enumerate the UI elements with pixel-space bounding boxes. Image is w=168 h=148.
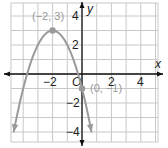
vertex-label: (−2, 3): [32, 10, 64, 22]
y-intercept-label: (0, −1): [90, 82, 122, 94]
vertex-point: [49, 27, 55, 33]
tick-labels: x y O −2 2 4 4 2 −2 −4: [43, 2, 162, 139]
x-tick-4: 4: [137, 75, 144, 89]
y-axis-down-arrow-icon: [80, 140, 85, 146]
parabola-graph: x y O −2 2 4 4 2 −2 −4 (−2, 3) (0, −1): [0, 0, 168, 148]
y-tick-4: 4: [72, 9, 79, 23]
grid-border: [11, 3, 158, 142]
grid: [11, 3, 158, 142]
x-axis-right-arrow-icon: [157, 72, 163, 77]
x-axis-label: x: [154, 57, 162, 71]
x-tick-neg2: −2: [43, 75, 57, 89]
y-axis-label: y: [86, 2, 94, 16]
y-intercept-point: [79, 85, 85, 91]
x-axis-left-arrow-icon: [4, 72, 10, 77]
y-tick-neg4: −4: [66, 125, 80, 139]
y-tick-neg2: −2: [66, 96, 80, 110]
y-tick-2: 2: [72, 38, 79, 52]
